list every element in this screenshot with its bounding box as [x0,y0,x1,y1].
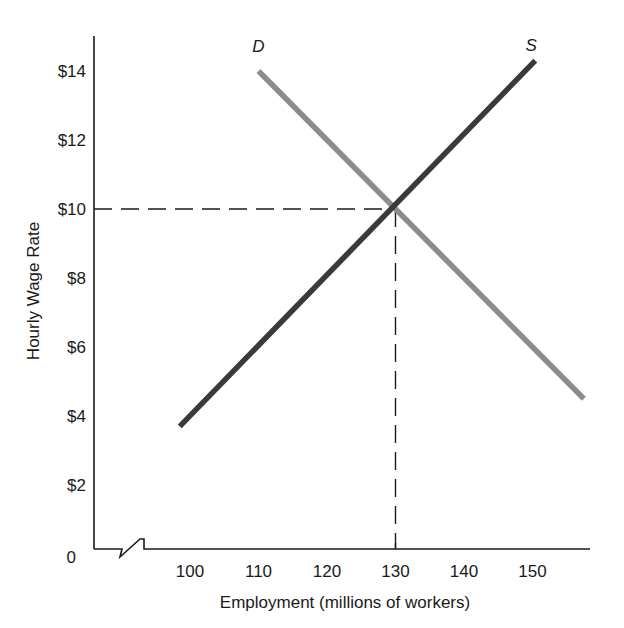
demand-curve [259,71,584,399]
y-tick-label: $12 [58,131,86,150]
y-tick-label: $8 [67,269,86,288]
x-tick-label: 120 [313,562,341,581]
y-tick-label: $14 [58,62,86,81]
x-tick-label: 100 [176,562,204,581]
labor-market-chart: 0$2$4$6$8$10$12$14100110120130140150 DS … [0,0,624,628]
x-tick-label: 140 [450,562,478,581]
axes: 0$2$4$6$8$10$12$14100110120130140150 [58,36,590,581]
curves: DS [180,36,584,427]
y-axis-title: Hourly Wage Rate [24,222,43,360]
equilibrium-guides [94,209,396,549]
demand-curve-label: D [252,37,264,56]
x-tick-label: 130 [381,562,409,581]
y-tick-label: 0 [67,548,76,567]
x-axis-title: Employment (millions of workers) [220,593,470,612]
y-tick-label: $10 [58,200,86,219]
y-tick-label: $2 [67,476,86,495]
labels: Employment (millions of workers) Hourly … [24,222,470,612]
supply-curve [180,61,536,427]
y-tick-label: $4 [67,407,86,426]
x-tick-label: 110 [245,562,272,581]
x-axis-line-with-break [94,539,590,557]
supply-curve-label: S [526,36,538,55]
y-tick-label: $6 [67,338,86,357]
x-tick-label: 150 [518,562,546,581]
